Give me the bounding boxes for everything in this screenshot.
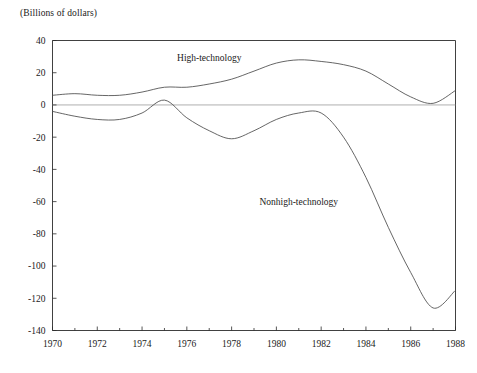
x-axis-tick-label: 1986	[401, 339, 420, 349]
x-axis-tick-label: 1980	[267, 339, 286, 349]
x-axis-tick-label: 1982	[312, 339, 331, 349]
y-axis-tick-label: -100	[28, 261, 46, 271]
y-axis-tick-label: 0	[41, 100, 46, 110]
y-axis-tick-label: -60	[33, 197, 46, 207]
x-axis-tick-label: 1988	[446, 339, 465, 349]
line-chart-plot: 40200-20-40-60-80-100-120-14019701972197…	[0, 0, 477, 373]
axis-frame	[53, 41, 456, 331]
x-axis-tick-label: 1974	[133, 339, 152, 349]
series-annotation-label: Nonhigh-technology	[259, 197, 338, 207]
x-axis-tick-label: 1972	[88, 339, 107, 349]
series-line-2	[53, 100, 456, 308]
y-axis-tick-label: -120	[28, 294, 46, 304]
y-axis-tick-label: -140	[28, 326, 46, 336]
chart-figure: (Billions of dollars) 40200-20-40-60-80-…	[0, 0, 477, 373]
y-axis-tick-label: -20	[33, 133, 46, 143]
y-axis-tick-label: 40	[36, 36, 46, 46]
y-axis-tick-label: -40	[33, 165, 46, 175]
series-annotation-label: High-technology	[177, 53, 242, 63]
x-axis-tick-label: 1978	[222, 339, 241, 349]
series-line-1	[53, 60, 456, 104]
y-axis-tick-label: 20	[36, 68, 46, 78]
x-axis-tick-label: 1970	[43, 339, 62, 349]
y-axis-tick-label: -80	[33, 229, 46, 239]
x-axis-tick-label: 1984	[356, 339, 375, 349]
x-axis-tick-label: 1976	[177, 339, 196, 349]
